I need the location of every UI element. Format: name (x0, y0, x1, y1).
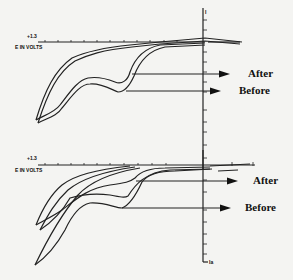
bottom-x-axis-label: E IN VOLTS (15, 167, 42, 173)
top-x-axis-label: E IN VOLTS (15, 44, 42, 50)
top-y-axis-label: I (205, 9, 206, 15)
top-x-tick-label: +1.3 (27, 33, 37, 39)
bottom-legend-before: Before (245, 201, 276, 213)
bottom-y-axis-label: Ia (209, 259, 213, 265)
top-legend-after: After (248, 67, 273, 79)
top-legend-before: Before (239, 84, 270, 96)
bottom-legend-after: After (253, 174, 278, 186)
bottom-x-tick-label: +1.3 (27, 155, 37, 161)
voltammogram-figure (0, 0, 293, 280)
